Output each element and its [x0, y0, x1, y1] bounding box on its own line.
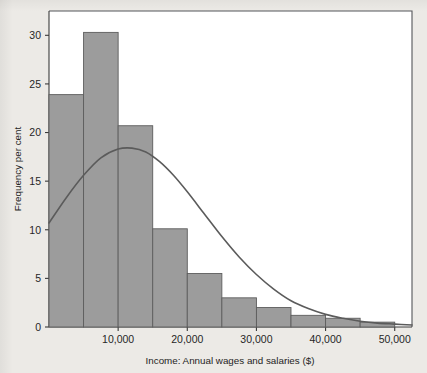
y-tick-label: 20 [29, 126, 41, 138]
y-axis-ticks: 051015202530 [29, 29, 49, 333]
x-axis-title: Income: Annual wages and salaries ($) [146, 355, 315, 366]
histogram-bar [326, 318, 361, 327]
chart-figure: 051015202530 10,00020,00030,00040,00050,… [0, 0, 427, 373]
histogram-bar [153, 229, 188, 327]
histogram-bar [187, 274, 222, 327]
histogram-bar [256, 308, 291, 327]
histogram-bar [222, 298, 257, 327]
histogram-bar [118, 126, 153, 327]
y-tick-label: 30 [29, 29, 41, 41]
histogram-bar [84, 32, 119, 327]
y-tick-label: 0 [35, 321, 41, 333]
histogram-bar [291, 315, 326, 327]
y-axis-title: Frequency per cent [12, 127, 23, 212]
x-tick-label: 10,000 [102, 333, 134, 345]
y-tick-label: 15 [29, 175, 41, 187]
y-tick-label: 25 [29, 78, 41, 90]
histogram-chart: 051015202530 10,00020,00030,00040,00050,… [0, 0, 427, 373]
histogram-bar [49, 95, 84, 327]
x-axis-ticks: 10,00020,00030,00040,00050,000 [102, 327, 411, 345]
x-tick-label: 20,000 [171, 333, 203, 345]
x-tick-label: 40,000 [310, 333, 342, 345]
x-tick-label: 30,000 [240, 333, 272, 345]
y-tick-label: 10 [29, 224, 41, 236]
x-tick-label: 50,000 [379, 333, 411, 345]
y-tick-label: 5 [35, 272, 41, 284]
